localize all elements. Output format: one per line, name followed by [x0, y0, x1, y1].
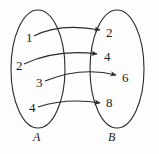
codomain-element-8: 8 [106, 96, 113, 109]
mapping-diagram: 1 2 3 4 2 4 6 8 A B [0, 0, 159, 154]
codomain-element-6: 6 [122, 71, 129, 84]
set-b-label: B [108, 131, 115, 143]
set-b-oval [90, 10, 144, 128]
arrow-3-to-6 [45, 72, 116, 81]
arrow-2-to-4 [24, 53, 97, 64]
diagram-canvas [0, 0, 159, 154]
set-a-label: A [33, 131, 40, 143]
domain-element-2: 2 [16, 59, 23, 72]
arrow-4-to-8 [38, 101, 100, 107]
domain-element-1: 1 [26, 31, 33, 44]
arrow-1-to-2 [34, 27, 100, 36]
codomain-element-4: 4 [104, 50, 111, 63]
domain-element-3: 3 [36, 76, 43, 89]
domain-element-4: 4 [29, 101, 36, 114]
codomain-element-2: 2 [106, 26, 113, 39]
